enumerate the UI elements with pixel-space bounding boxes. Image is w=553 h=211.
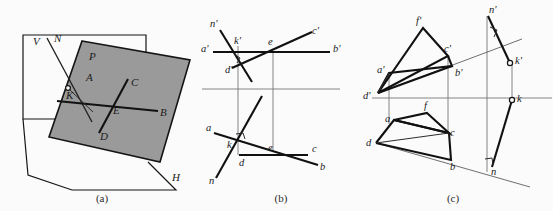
label-d-b: d xyxy=(239,157,245,168)
panel-c-group: f' c' a' b' d' n' k' k f a c d b n xyxy=(363,4,552,187)
point-k-marker-c xyxy=(509,97,514,102)
label-P: P xyxy=(88,50,96,62)
label-K: K xyxy=(65,89,74,101)
label-k-b: k xyxy=(227,139,232,150)
captions-group: (a) (b) (c) xyxy=(96,192,460,205)
label-b-c: b xyxy=(450,161,455,172)
label-b-prime-b: b' xyxy=(333,43,341,54)
panel-a-group: V N P A K C E B D H xyxy=(23,32,190,190)
caption-panel-b: (b) xyxy=(275,192,288,205)
label-A: A xyxy=(85,71,93,83)
label-E: E xyxy=(112,104,120,116)
label-a-c: a xyxy=(385,113,390,124)
label-k-c: k xyxy=(517,93,522,104)
label-a-prime-c: a' xyxy=(377,64,385,75)
label-f-prime-c: f' xyxy=(416,15,422,26)
label-f-c: f xyxy=(424,100,429,111)
normal-front-view-c xyxy=(488,16,510,63)
caption-panel-c: (c) xyxy=(447,192,460,205)
front-view-triangle-c xyxy=(378,28,448,93)
right-angle-mark-upper-c xyxy=(490,27,497,37)
label-H: H xyxy=(171,171,181,183)
label-n-b: n xyxy=(209,175,214,186)
descriptive-geometry-figure: V N P A K C E B D H n' k' xyxy=(0,0,553,211)
label-N: N xyxy=(53,32,62,44)
label-k-prime-b: k' xyxy=(234,35,242,46)
label-e-prime-b: e xyxy=(268,36,273,47)
top-view-edge-dc-c xyxy=(376,133,449,143)
label-d-prime-b: d' xyxy=(225,64,233,75)
label-d-c: d xyxy=(366,137,372,148)
label-C: C xyxy=(131,76,139,88)
label-b-prime-c: b' xyxy=(455,67,463,78)
label-d-prime-c: d' xyxy=(363,90,371,101)
point-k-prime-marker-c xyxy=(507,60,512,65)
label-c-prime-b: c' xyxy=(312,25,320,36)
label-c-b: c xyxy=(312,143,317,154)
label-c-c: c xyxy=(450,127,455,138)
label-V: V xyxy=(33,35,41,47)
label-a-b: a xyxy=(206,122,211,133)
figure-canvas: V N P A K C E B D H n' k' xyxy=(0,0,553,211)
label-n-prime-c: n' xyxy=(489,4,497,15)
caption-panel-a: (a) xyxy=(96,192,109,205)
label-b-b: b xyxy=(320,161,325,172)
label-k-prime-c: k' xyxy=(515,55,523,66)
label-a-prime-b: a' xyxy=(201,43,209,54)
normal-top-view-c xyxy=(492,100,512,167)
label-e-b: e xyxy=(268,142,273,153)
label-B: B xyxy=(160,106,167,118)
label-D: D xyxy=(99,130,108,142)
label-n-prime-b: n' xyxy=(210,18,218,29)
label-n-c: n xyxy=(491,166,496,177)
right-angle-mark-lower-c xyxy=(485,158,493,165)
label-c-prime-c: c' xyxy=(444,43,452,54)
panel-b-group: n' k' e c' a' b' d' a k d e c b n xyxy=(201,18,341,186)
